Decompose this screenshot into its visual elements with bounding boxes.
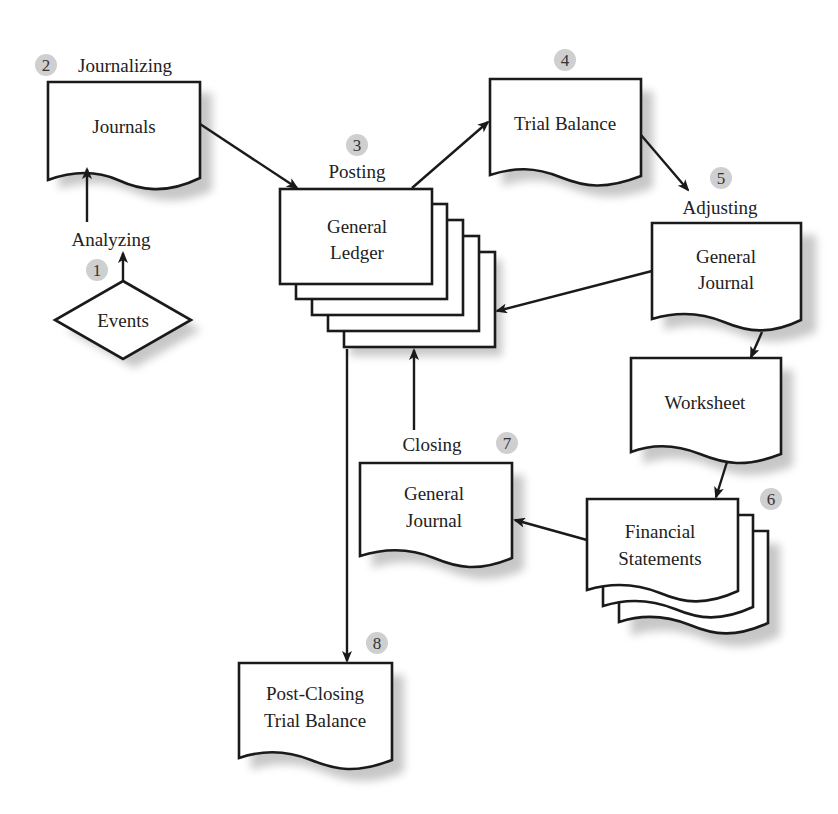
events-label: Events (97, 310, 149, 331)
financial-statements-label-line2: Statements (618, 548, 701, 569)
financial-statements-label-line1: Financial (625, 521, 696, 542)
svg-text:5: 5 (717, 169, 726, 188)
closing-journal-label-line1: General (404, 483, 464, 504)
svg-text:1: 1 (93, 261, 102, 280)
closing-journal-label-line2: Journal (406, 510, 462, 531)
step-3-badge: 3 (346, 134, 368, 156)
edge-adjusting-to-ledger (497, 271, 652, 311)
adjusting-journal-label-line1: General (696, 246, 756, 267)
svg-text:2: 2 (42, 56, 51, 75)
worksheet-label: Worksheet (665, 392, 746, 413)
step-7-badge: 7 (496, 432, 518, 454)
general-ledger-node: General Ledger (280, 189, 502, 356)
step-6-badge: 6 (760, 488, 782, 510)
svg-text:3: 3 (353, 136, 362, 155)
step-5-badge: 5 (710, 167, 732, 189)
svg-text:7: 7 (503, 434, 512, 453)
step-analyzing-label: Analyzing (71, 229, 151, 250)
step-posting-label: Posting (328, 161, 386, 182)
svg-text:6: 6 (767, 490, 776, 509)
step-journalizing-label: Journalizing (78, 55, 172, 76)
post-closing-label-line1: Post-Closing (266, 683, 365, 704)
journals-label: Journals (92, 116, 155, 137)
journals-node: Journals (48, 82, 212, 200)
closing-general-journal-node: General Journal (360, 463, 524, 579)
step-closing-label: Closing (402, 434, 462, 455)
edge-financial-statements-to-closing (515, 520, 587, 540)
trial-balance-node: Trial Balance (490, 79, 653, 197)
step-adjusting-label: Adjusting (683, 197, 758, 218)
worksheet-node: Worksheet (631, 358, 793, 475)
edge-journals-to-ledger (200, 124, 297, 188)
step-8-badge: 8 (366, 632, 388, 654)
svg-text:4: 4 (561, 51, 570, 70)
step-4-badge: 4 (554, 49, 576, 71)
adjusting-journal-label-line2: Journal (698, 272, 754, 293)
post-closing-trial-balance-node: Post-Closing Trial Balance (239, 663, 404, 781)
general-ledger-label-line1: General (327, 216, 387, 237)
step-1-badge: 1 (86, 259, 108, 281)
edge-ledger-to-trial-balance (412, 122, 488, 188)
events-node: Events (55, 281, 201, 368)
financial-statements-node: Financial Statements (587, 499, 780, 646)
general-ledger-label-line2: Ledger (330, 242, 384, 263)
accounting-cycle-diagram: Journals 2 Journalizing Events Analyzing… (0, 0, 838, 814)
trial-balance-label: Trial Balance (514, 113, 616, 134)
step-2-badge: 2 (35, 54, 57, 76)
adjusting-general-journal-node: General Journal (652, 223, 816, 342)
post-closing-label-line2: Trial Balance (264, 710, 366, 731)
svg-text:8: 8 (373, 634, 382, 653)
